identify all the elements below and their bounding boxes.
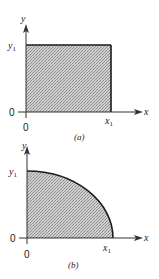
- origin-below-label: 0: [23, 122, 29, 133]
- figure-a: y x y1 x1 0 0 (a): [7, 13, 149, 142]
- caption-a: (a): [74, 132, 85, 142]
- y-axis-label: y: [21, 140, 27, 151]
- shaded-quarter-ellipse: [27, 171, 113, 238]
- shaded-rectangle: [26, 45, 111, 112]
- y-axis-label: y: [20, 13, 26, 24]
- caption-b: (b): [68, 260, 79, 270]
- origin-below-label: 0: [24, 249, 30, 260]
- diagram-canvas: y x y1 x1 0 0 (a) y x y1 x1 0 0 (b): [0, 0, 159, 279]
- x-axis-label: x: [143, 232, 149, 243]
- x-axis-label: x: [143, 106, 149, 117]
- origin-left-label: 0: [9, 107, 15, 118]
- x1-label: x1: [104, 115, 113, 128]
- x1-label: x1: [102, 242, 111, 255]
- y1-label: y1: [8, 166, 17, 179]
- y1-label: y1: [7, 40, 16, 53]
- figure-b: y x y1 x1 0 0 (b): [8, 140, 149, 270]
- origin-left-label: 0: [10, 233, 16, 244]
